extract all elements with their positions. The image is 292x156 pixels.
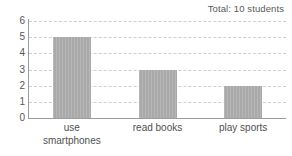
y-axis-line [28,19,29,119]
y-tick-label: 5 [3,32,25,42]
bar-chart: Total: 10 students 0123456 use smartphon… [0,0,292,156]
y-tick-label: 4 [3,48,25,58]
x-axis-line [28,118,286,119]
plot-area [29,21,286,118]
x-axis-category-label: use smartphones [29,122,115,147]
bar[interactable] [224,86,262,118]
gridline [29,21,286,22]
y-axis-tick-labels: 0123456 [0,0,25,156]
bar[interactable] [139,70,177,119]
y-tick-label: 6 [3,16,25,26]
bar[interactable] [53,37,91,118]
total-annotation: Total: 10 students [208,3,284,14]
y-tick-label: 1 [3,97,25,107]
y-tick-label: 3 [3,65,25,75]
y-tick-label: 0 [3,113,25,123]
y-tick-label: 2 [3,81,25,91]
x-axis-category-label: play sports [200,122,286,135]
x-axis-category-label: read books [115,122,201,135]
